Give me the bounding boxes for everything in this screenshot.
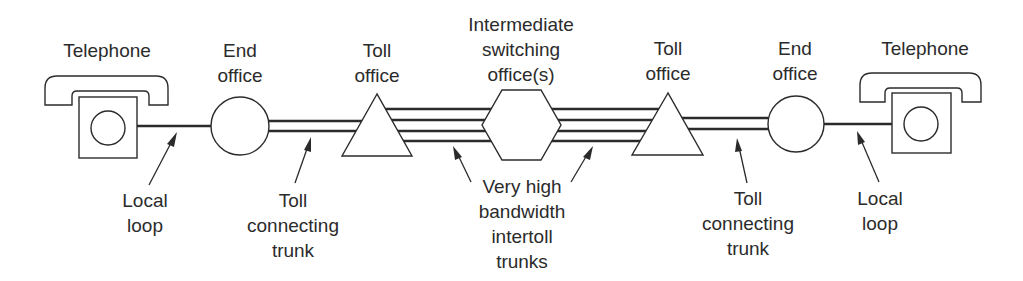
label-line: Very high [479,174,566,199]
toll-connecting-trunk-left-wires [267,121,370,131]
arrow-toll-trunk-left-icon [295,137,311,183]
label-line: trunk [702,236,794,261]
label-toll-office-left: Toll office [354,38,399,88]
label-local-loop-right: Local loop [857,186,902,236]
label-line: Toll [354,38,399,63]
label-toll-office-right: Toll office [645,36,690,86]
label-telephone-left: Telephone [63,38,151,63]
label-intertoll-trunks: Very high bandwidth intertoll trunks [479,174,566,274]
toll-office-left-triangle-icon [342,94,412,156]
label-line: connecting [247,213,339,238]
end-office-left-circle-icon [211,97,269,155]
label-end-office-left: End office [217,38,262,88]
label-line: office [645,61,690,86]
label-telephone-right: Telephone [881,36,969,61]
label-line: Local [857,186,902,211]
arrow-intertoll-left-icon [453,146,471,182]
label-line: trunks [479,249,566,274]
label-line: office(s) [468,62,574,87]
arrow-intertoll-right-icon [571,146,593,182]
telephone-right-icon [860,73,981,153]
arrow-local-loop-left-icon [149,132,177,185]
label-line: Telephone [63,38,151,63]
label-line: loop [122,213,167,238]
label-line: Toll [702,186,794,211]
label-line: loop [857,211,902,236]
toll-connecting-trunk-right-wires [675,118,768,129]
label-line: bandwidth [479,199,566,224]
intertoll-trunks-left-wires [385,109,496,141]
label-line: End [217,38,262,63]
label-line: connecting [702,211,794,236]
label-line: office [354,63,399,88]
label-line: switching [468,37,574,62]
label-toll-connecting-trunk-left: Toll connecting trunk [247,188,339,263]
label-line: office [772,61,817,86]
label-toll-connecting-trunk-right: Toll connecting trunk [702,186,794,261]
label-line: trunk [247,238,339,263]
telephone-network-diagram: Telephone End office Toll office Interme… [0,0,1023,281]
label-local-loop-left: Local loop [122,188,167,238]
toll-office-right-triangle-icon [632,93,703,155]
telephone-left-icon [45,76,168,158]
label-intermediate-switching: Intermediate switching office(s) [468,12,574,87]
arrow-toll-trunk-right-icon [735,138,747,183]
intermediate-switching-hexagon-icon [482,90,561,160]
label-line: Intermediate [468,12,574,37]
label-end-office-right: End office [772,36,817,86]
label-line: Telephone [881,36,969,61]
label-line: Toll [645,36,690,61]
arrow-local-loop-right-icon [857,131,879,182]
label-line: End [772,36,817,61]
label-line: Local [122,188,167,213]
end-office-right-circle-icon [768,96,824,152]
label-line: intertoll [479,224,566,249]
label-line: office [217,63,262,88]
label-line: Toll [247,188,339,213]
